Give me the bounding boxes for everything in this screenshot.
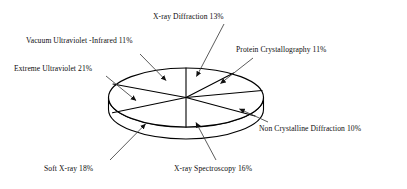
slice-label-vacuum-ultraviolet-infrared: Vacuum Ultraviolet -Infrared 11% (26, 36, 133, 45)
slice-label-soft-xray: Soft X-ray 18% (44, 164, 93, 173)
slice-label-protein-crystallography: Protein Crystallography 11% (236, 45, 326, 54)
slice-label-extreme-ultraviolet: Extreme Ultraviolet 21% (14, 64, 92, 73)
slice-label-non-crystalline-diffraction: Non Crystalline Diffraction 10% (259, 124, 361, 133)
slice-label-xray-diffraction: X-ray Diffraction 13% (153, 12, 224, 21)
pie-chart-figure: X-ray Diffraction 13% Protein Crystallog… (0, 0, 407, 189)
pie-chart-svg (0, 0, 407, 189)
leader-xray-diffraction (197, 24, 225, 77)
slice-label-xray-spectroscopy: X-ray Spectroscopy 16% (174, 164, 252, 173)
